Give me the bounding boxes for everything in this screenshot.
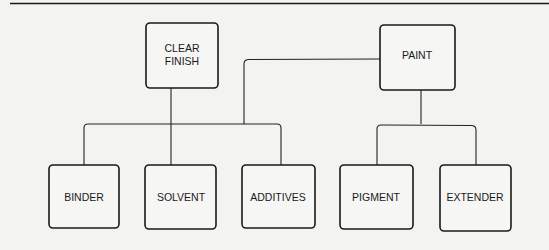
node-binder: BINDER (49, 165, 119, 228)
edge-left-bus (84, 124, 281, 165)
paint-composition-diagram: CLEAR FINISH PAINT BINDER SOLVENT ADDITI… (0, 0, 549, 250)
node-additives: ADDITIVES (242, 165, 315, 228)
node-label-paint: PAINT (402, 49, 433, 61)
edge-paint-to-clear-finish-group (244, 59, 380, 124)
node-clear-finish: CLEAR FINISH (146, 23, 218, 88)
node-label-additives: ADDITIVES (250, 191, 305, 203)
node-label-extender: EXTENDER (446, 191, 504, 203)
node-label-pigment: PIGMENT (352, 191, 400, 203)
node-paint: PAINT (380, 25, 455, 90)
node-extender: EXTENDER (440, 165, 511, 231)
node-label-solvent: SOLVENT (157, 191, 206, 203)
node-solvent: SOLVENT (145, 165, 216, 229)
node-label-clear-finish-line2: FINISH (165, 55, 199, 67)
node-label-clear-finish-line1: CLEAR (164, 42, 199, 54)
node-label-binder: BINDER (64, 191, 104, 203)
edge-right-bus (377, 125, 476, 165)
node-pigment: PIGMENT (340, 165, 413, 229)
